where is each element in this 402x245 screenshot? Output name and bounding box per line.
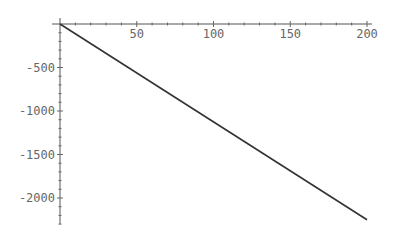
y-tick-label: -1000 — [19, 104, 55, 118]
y-tick-label: -2000 — [19, 191, 55, 205]
line-chart: 50100150200-500-1000-1500-2000 — [0, 0, 402, 245]
x-tick-label: 100 — [203, 27, 225, 41]
x-tick-label: 50 — [130, 27, 144, 41]
data-line — [60, 24, 367, 220]
y-tick-label: -1500 — [19, 148, 55, 162]
x-tick-label: 150 — [279, 27, 301, 41]
x-tick-label: 200 — [356, 27, 378, 41]
y-tick-label: -500 — [26, 61, 55, 75]
